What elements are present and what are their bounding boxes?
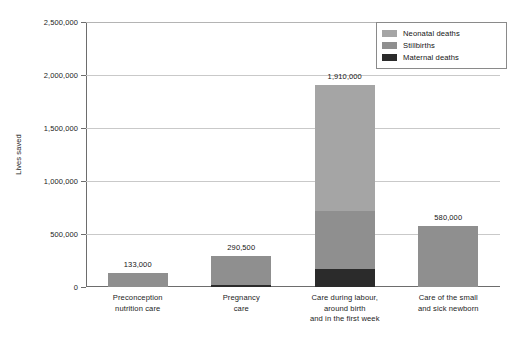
bar-stack[interactable] [418, 226, 478, 287]
chart-legend: Neonatal deaths Stillbirths Maternal dea… [376, 22, 507, 69]
bar-segment[interactable] [108, 273, 168, 287]
x-axis-category-label: Pregnancycare [190, 293, 294, 314]
legend-swatch-icon [382, 42, 397, 49]
x-axis-label-line: Care during labour, [293, 293, 397, 304]
bar-value-label: 290,500 [227, 243, 255, 252]
bar-segment[interactable] [315, 85, 375, 211]
y-axis-tick-label: 1,500,000 [44, 124, 78, 133]
y-axis-tick-label: 0 [74, 283, 78, 292]
legend-item-stillbirths: Stillbirths [382, 40, 500, 51]
bar-segment[interactable] [315, 211, 375, 269]
x-axis-category-label: Care of the smalland sick newborn [397, 293, 501, 314]
x-axis-label-line: Preconception [86, 293, 190, 304]
bar-value-label: 1,910,000 [328, 72, 362, 81]
y-axis-tick-label: 500,000 [50, 230, 78, 239]
x-axis-category-label: Preconceptionnutrition care [86, 293, 190, 314]
bar-stack[interactable] [108, 273, 168, 287]
legend-swatch-icon [382, 30, 397, 37]
bar-group[interactable]: 133,000 [108, 22, 168, 287]
bar-segment[interactable] [418, 226, 478, 287]
bar-value-label: 580,000 [434, 213, 462, 222]
legend-swatch-icon [382, 54, 397, 61]
bar-segment[interactable] [211, 285, 271, 287]
x-axis-label-line: nutrition care [86, 304, 190, 315]
legend-item-maternal-deaths: Maternal deaths [382, 52, 500, 63]
bar-value-label: 133,000 [124, 260, 152, 269]
legend-item-neonatal-deaths: Neonatal deaths [382, 28, 500, 39]
y-axis-tick-label: 2,000,000 [44, 71, 78, 80]
x-axis-label-line: and in the first week [293, 314, 397, 325]
stacked-bar-chart: Lives saved 0500,0001,000,0001,500,0002,… [0, 0, 513, 352]
bar-group[interactable]: 290,500 [211, 22, 271, 287]
bar-stack[interactable] [315, 85, 375, 287]
legend-item-label: Neonatal deaths [403, 29, 460, 38]
x-axis-label-line: Pregnancy [190, 293, 294, 304]
x-axis-label-line: around birth [293, 304, 397, 315]
y-axis-tick [81, 287, 86, 288]
x-axis-category-label: Care during labour,around birthand in th… [293, 293, 397, 325]
y-axis-tick-label: 2,500,000 [44, 18, 78, 27]
x-axis-label-line: care [190, 304, 294, 315]
x-axis-label-line: and sick newborn [397, 304, 501, 315]
legend-item-label: Maternal deaths [403, 53, 459, 62]
x-axis-label-line: Care of the small [397, 293, 501, 304]
y-axis-tick-label: 1,000,000 [44, 177, 78, 186]
bar-segment[interactable] [211, 256, 271, 285]
x-axis-labels: Preconceptionnutrition carePregnancycare… [86, 293, 500, 349]
bar-segment[interactable] [315, 269, 375, 287]
y-axis-title: Lives saved [14, 110, 23, 200]
bar-group[interactable]: 1,910,000 [315, 22, 375, 287]
bar-stack[interactable] [211, 256, 271, 287]
legend-item-label: Stillbirths [403, 41, 435, 50]
